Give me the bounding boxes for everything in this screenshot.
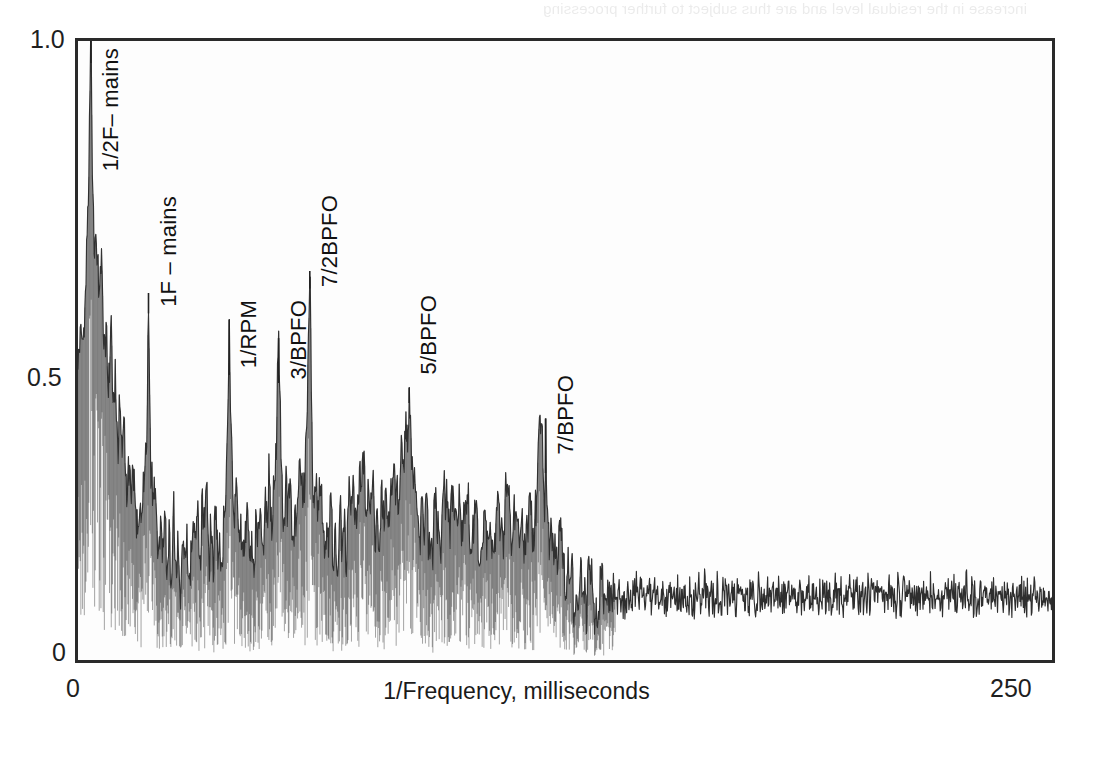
y-axis-tick-mid: 0.5: [27, 365, 62, 390]
peak-label: 5/BPFO: [416, 295, 442, 374]
y-axis-tick-top: 1.0: [30, 27, 65, 52]
peak-label: 1/RPM: [236, 300, 262, 368]
cepstrum-chart: 1.0 0.5 0 0 250 1/Frequency, millisecond…: [0, 0, 1097, 759]
peak-label: 1/2F– mains: [98, 48, 124, 171]
x-axis-title-text: 1/Frequency, milliseconds: [383, 678, 650, 705]
peak-label: 7/BPFO: [553, 375, 579, 454]
peak-label: 1F – mains: [156, 196, 182, 307]
cepstrum-trace-svg: [78, 41, 1052, 660]
x-axis-title: 1/Frequency, milliseconds: [0, 678, 1097, 705]
cepstrum-spike-texture: [78, 41, 615, 656]
y-axis-tick-bottom: 0: [52, 640, 66, 665]
peak-label: 3/BPFO: [286, 300, 312, 379]
cepstrum-trace: [78, 41, 1052, 656]
peak-label: 7/2BPFO: [317, 195, 343, 287]
plot-area: [75, 38, 1055, 663]
